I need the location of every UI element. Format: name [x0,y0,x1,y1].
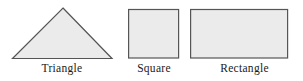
triangle-shape-icon [0,0,124,60]
shape-item-square: Square [124,0,184,81]
shapes-figure: Triangle Square Rectangle [0,0,303,81]
shape-item-triangle: Triangle [0,0,124,81]
shape-label-square: Square [124,61,184,75]
shape-label-rectangle: Rectangle [186,61,303,75]
rectangle-shape-icon [186,0,303,60]
shape-label-triangle: Triangle [0,61,124,75]
square-shape-icon [124,0,184,60]
shape-item-rectangle: Rectangle [186,0,303,81]
